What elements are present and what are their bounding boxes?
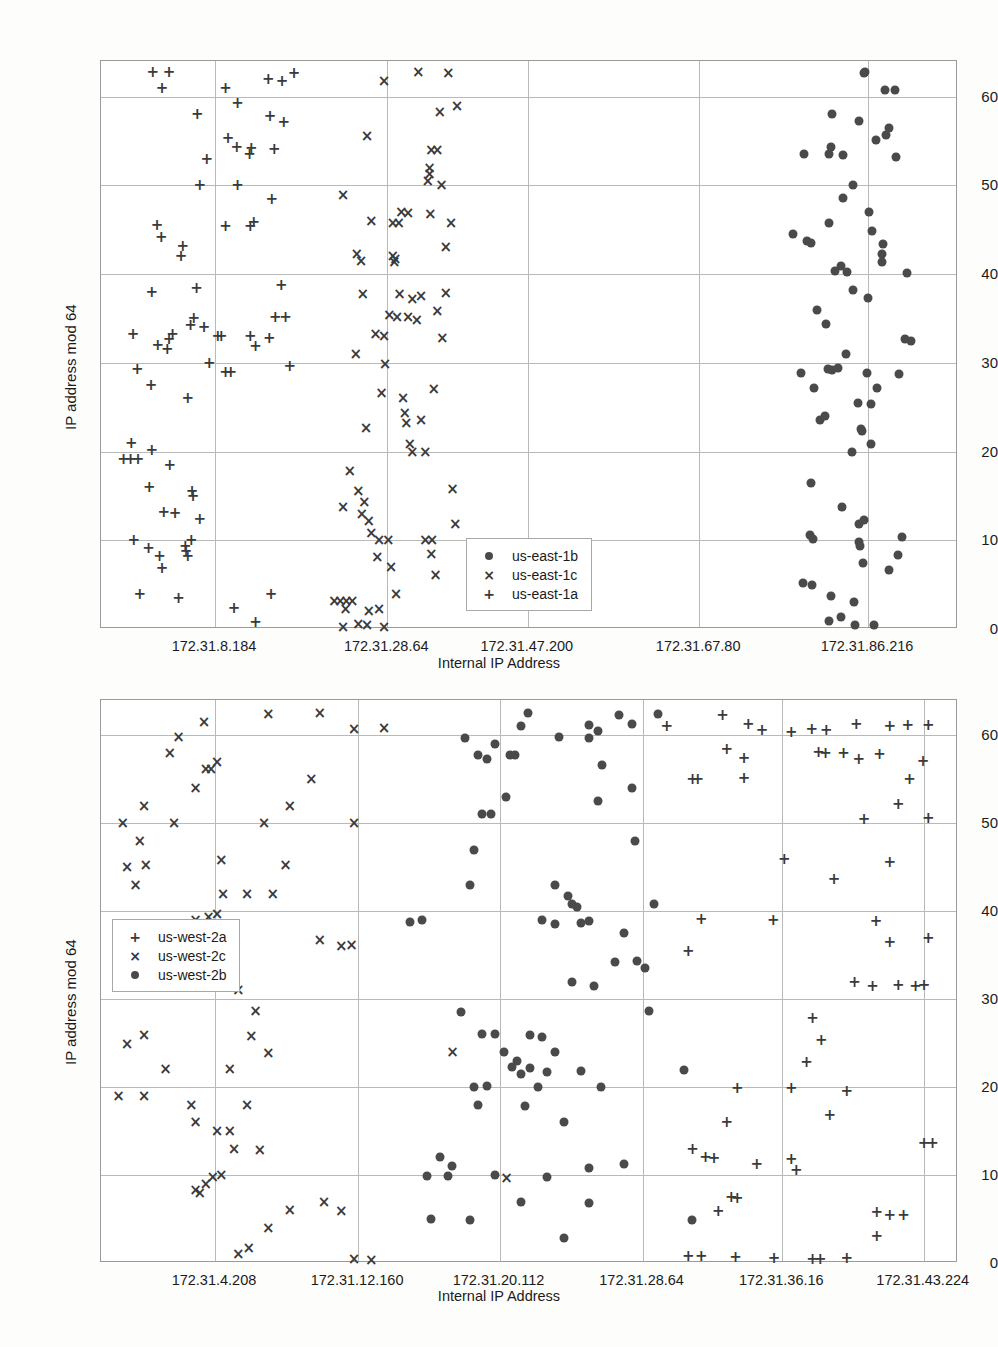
- data-point-us-east-1a: [279, 311, 291, 323]
- gridline-vertical: [868, 61, 869, 627]
- data-point-us-east-1c: [350, 348, 362, 360]
- data-point-us-west-2b: [551, 880, 560, 889]
- data-point-us-east-1c: [404, 438, 416, 450]
- data-point-us-west-2c: [378, 722, 390, 734]
- y-tick-label: 20: [910, 1078, 998, 1095]
- legend-item-us-west-2c[interactable]: ×us-west-2c: [122, 946, 226, 965]
- data-point-us-east-1b: [842, 268, 851, 277]
- data-point-us-west-2b: [628, 719, 637, 728]
- data-point-us-west-2c: [224, 1125, 236, 1137]
- data-point-us-east-1c: [412, 66, 424, 78]
- data-point-us-west-2b: [435, 1153, 444, 1162]
- data-point-us-east-1c: [344, 465, 356, 477]
- data-point-us-west-2c: [284, 1204, 296, 1216]
- data-point-us-west-2c: [241, 1099, 253, 1111]
- data-point-us-east-1a: [146, 444, 158, 456]
- data-point-us-east-1c: [415, 290, 427, 302]
- y-axis-title-1: IP address mod 64: [62, 304, 79, 430]
- data-point-us-west-2b: [456, 1008, 465, 1017]
- data-point-us-east-1a: [161, 343, 173, 355]
- data-point-us-west-2c: [215, 854, 227, 866]
- data-point-us-east-1a: [219, 82, 231, 94]
- data-point-us-west-2c: [446, 1046, 458, 1058]
- data-point-us-west-2b: [611, 958, 620, 967]
- data-point-us-west-2b: [505, 750, 514, 759]
- data-point-us-east-1c: [425, 548, 437, 560]
- data-point-us-west-2a: [814, 1253, 826, 1265]
- data-point-us-west-2a: [883, 1209, 895, 1221]
- data-point-us-east-1a: [155, 231, 167, 243]
- x-tick-label: 172.31.20.112: [453, 1272, 545, 1288]
- data-point-us-east-1a: [158, 506, 170, 518]
- data-point-us-east-1b: [849, 285, 858, 294]
- data-point-us-east-1b: [834, 364, 843, 373]
- data-point-us-west-2b: [491, 739, 500, 748]
- y-tick-label: 60: [910, 726, 998, 743]
- data-point-us-east-1c: [358, 496, 370, 508]
- data-point-us-west-2b: [568, 977, 577, 986]
- data-point-us-east-1a: [248, 216, 260, 228]
- data-point-us-east-1a: [198, 321, 210, 333]
- data-point-us-west-2a: [805, 723, 817, 735]
- data-point-us-west-2c: [138, 800, 150, 812]
- data-point-us-east-1c: [365, 527, 377, 539]
- data-point-us-east-1c: [395, 206, 407, 218]
- legend-item-us-west-2b[interactable]: us-west-2b: [122, 965, 226, 984]
- x-tick-label: 172.31.36.16: [739, 1272, 824, 1288]
- legend-item-us-east-1c[interactable]: ×us-east-1c: [476, 565, 578, 584]
- data-point-us-east-1b: [877, 258, 886, 267]
- data-point-us-west-2c: [284, 800, 296, 812]
- data-point-us-east-1a: [224, 366, 236, 378]
- data-point-us-east-1c: [375, 387, 387, 399]
- data-point-us-west-2a: [800, 1056, 812, 1068]
- data-point-us-east-1a: [263, 332, 275, 344]
- data-point-us-west-2c: [262, 1222, 274, 1234]
- data-point-us-east-1b: [858, 427, 867, 436]
- gridline-vertical: [699, 61, 700, 627]
- data-point-us-east-1b: [824, 617, 833, 626]
- circle-marker-icon: [122, 965, 148, 984]
- data-point-us-east-1b: [822, 319, 831, 328]
- gridline-horizontal: [101, 823, 956, 824]
- legend-item-us-east-1a[interactable]: +us-east-1a: [476, 584, 578, 603]
- data-point-us-east-1a: [264, 110, 276, 122]
- data-point-us-east-1b: [884, 123, 893, 132]
- data-point-us-east-1a: [275, 279, 287, 291]
- data-point-us-east-1a: [175, 250, 187, 262]
- data-point-us-west-2c: [159, 1063, 171, 1075]
- data-point-us-west-2c: [228, 1143, 240, 1155]
- data-point-us-west-2b: [551, 920, 560, 929]
- data-point-us-east-1b: [837, 262, 846, 271]
- legend-item-us-west-2a[interactable]: +us-west-2a: [122, 927, 226, 946]
- legend-1[interactable]: us-east-1b×us-east-1c+us-east-1a: [466, 538, 592, 611]
- data-point-us-east-1c: [360, 422, 372, 434]
- data-point-us-west-2a: [778, 853, 790, 865]
- data-point-us-west-2a: [926, 1137, 938, 1149]
- data-point-us-east-1b: [798, 578, 807, 587]
- data-point-us-east-1c: [388, 256, 400, 268]
- data-point-us-east-1c: [400, 417, 412, 429]
- data-point-us-east-1b: [799, 150, 808, 159]
- legend-2[interactable]: +us-west-2a×us-west-2cus-west-2b: [112, 919, 240, 992]
- data-point-us-west-2b: [619, 1160, 628, 1169]
- data-point-us-east-1b: [824, 219, 833, 228]
- data-point-us-west-2c: [206, 1171, 218, 1183]
- data-point-us-east-1c: [428, 383, 440, 395]
- data-point-us-west-2a: [695, 1250, 707, 1262]
- plot-wrapper-1: 0102030405060 172.31.8.184172.31.28.6417…: [0, 0, 998, 690]
- data-point-us-west-2c: [335, 940, 347, 952]
- data-point-us-west-2b: [510, 750, 519, 759]
- data-point-us-west-2c: [198, 716, 210, 728]
- data-point-us-east-1a: [187, 490, 199, 502]
- data-point-us-west-2b: [585, 1163, 594, 1172]
- legend-item-us-east-1b[interactable]: us-east-1b: [476, 546, 578, 565]
- data-point-us-west-2b: [654, 710, 663, 719]
- data-point-us-east-1b: [872, 383, 881, 392]
- data-point-us-west-2c: [335, 1205, 347, 1217]
- data-point-us-east-1a: [265, 588, 277, 600]
- data-point-us-west-2a: [883, 720, 895, 732]
- y-tick-label: 60: [910, 87, 998, 104]
- data-point-us-east-1b: [828, 110, 837, 119]
- data-point-us-east-1c: [337, 621, 349, 633]
- data-point-us-west-2c: [318, 1196, 330, 1208]
